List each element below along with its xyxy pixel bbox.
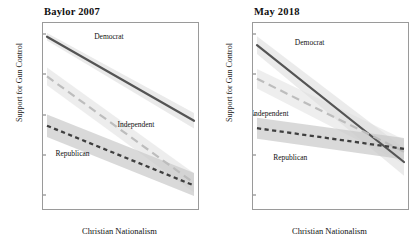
y-tick: 4.0 [42, 71, 43, 78]
panel-title: May 2018 [254, 6, 300, 17]
series-label-independent: Independent [117, 120, 154, 129]
line-democrat [47, 37, 194, 121]
y-axis-label: Support for Gun Control [15, 8, 24, 158]
y-tick: 3.0 [42, 152, 43, 159]
series-label-democrat: Democrat [94, 32, 124, 41]
x-axis-label: Christian Nationalism [252, 226, 407, 236]
panel-may-2018: May 2018 Support for Gun Control 4.5 4.0… [210, 0, 420, 252]
series-label-republican: Republican [55, 149, 89, 158]
plot-area: 4.5 4.0 3.5 3.0 2.5 Low High Democrat In… [42, 22, 199, 210]
series-label-republican: Republican [273, 153, 307, 162]
y-tick: 3.0 [252, 152, 253, 159]
y-tick: 2.5 [42, 192, 43, 199]
plot-area: 4.5 4.0 3.5 3.0 2.5 Low High Democrat In… [252, 22, 409, 210]
y-tick: 2.5 [252, 192, 253, 199]
y-tick: 4.5 [252, 30, 253, 37]
figure-two-panel-line-chart: Baylor 2007 Support for Gun Control 4.5 … [0, 0, 420, 252]
y-tick: 3.5 [42, 111, 43, 118]
ribbon-democrat [47, 33, 194, 129]
y-tick: 4.5 [42, 30, 43, 37]
panel-title: Baylor 2007 [44, 6, 100, 17]
x-axis-label: Christian Nationalism [42, 226, 197, 236]
series-label-democrat: Democrat [295, 38, 325, 47]
panel-baylor-2007: Baylor 2007 Support for Gun Control 4.5 … [0, 0, 210, 252]
y-tick: 4.0 [252, 71, 253, 78]
y-axis-label: Support for Gun Control [225, 8, 234, 158]
plot-svg [43, 23, 198, 209]
series-label-independent: Independent [252, 109, 289, 118]
